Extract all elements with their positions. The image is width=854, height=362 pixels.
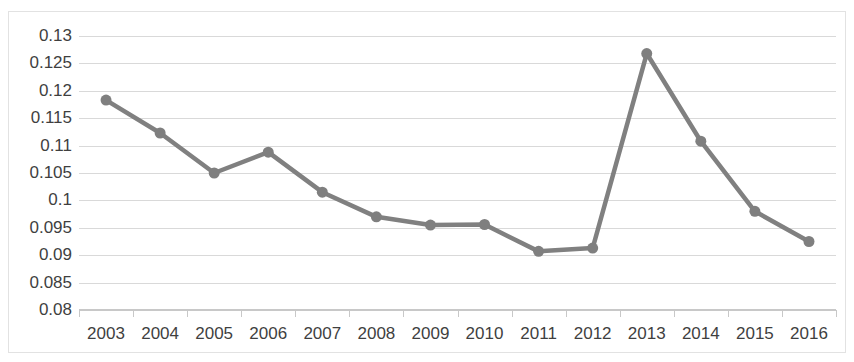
data-point-marker	[803, 236, 814, 247]
data-point-marker	[479, 219, 490, 230]
data-point-marker	[263, 147, 274, 158]
line-chart: 0.130.1250.120.1150.110.1050.10.0950.090…	[0, 0, 854, 362]
data-point-marker	[641, 48, 652, 59]
series-line	[106, 54, 809, 252]
data-point-marker	[155, 128, 166, 139]
data-point-marker	[209, 168, 220, 179]
data-point-marker	[533, 246, 544, 257]
data-point-marker	[695, 136, 706, 147]
data-point-marker	[425, 220, 436, 231]
data-series-group	[0, 0, 854, 362]
data-point-marker	[317, 187, 328, 198]
data-point-marker	[587, 243, 598, 254]
data-point-marker	[749, 206, 760, 217]
data-point-marker	[371, 211, 382, 222]
data-point-marker	[101, 95, 112, 106]
